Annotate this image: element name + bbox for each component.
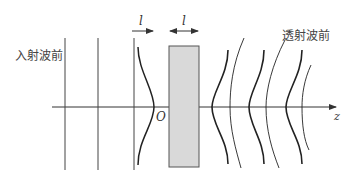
transmitted-wavefronts (212, 38, 311, 168)
z-axis-label: z (334, 110, 340, 123)
transmitted-wavefront-label: 透射波前 (282, 26, 330, 43)
propagation-label: l (139, 14, 143, 28)
incident-wavefront-label: 入射波前 (15, 46, 63, 63)
converging-wavefront (138, 47, 154, 165)
incident-wavefronts (65, 38, 134, 170)
slab (169, 46, 199, 167)
origin-label: O (156, 110, 166, 124)
slab-width-label: l (182, 14, 186, 28)
